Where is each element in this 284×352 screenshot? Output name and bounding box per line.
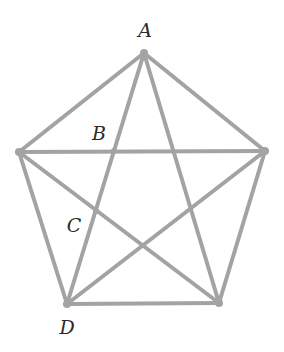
label-a: A [136, 19, 152, 41]
vertex-bottom-right [215, 299, 223, 307]
diagonal-top-bottomright [144, 53, 219, 303]
side-right-bottomright [219, 151, 265, 303]
point-b [111, 148, 117, 154]
label-d: D [58, 316, 74, 338]
diagonal-bottomleft-right [67, 151, 265, 304]
side-bottom [67, 303, 219, 304]
side-top-right [144, 53, 265, 151]
diagram-svg: A B C D [0, 0, 284, 352]
vertex-right [261, 147, 269, 155]
pentagon-diagram: A B C D [0, 0, 284, 352]
vertex-d [63, 300, 71, 308]
point-c [93, 208, 99, 214]
label-c: C [67, 214, 82, 236]
vertex-left [15, 148, 23, 156]
diagonal-top-bottomleft [67, 53, 144, 304]
side-left-top [19, 53, 144, 152]
side-bottomleft-left [19, 152, 67, 304]
diagonal-left-bottomright [19, 152, 219, 303]
diagonal-left-right [19, 151, 265, 152]
vertex-a [140, 49, 148, 57]
label-b: B [91, 122, 106, 144]
